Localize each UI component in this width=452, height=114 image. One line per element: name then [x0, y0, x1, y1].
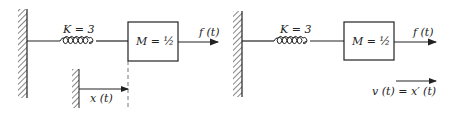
wall [18, 9, 27, 98]
reference-wall [72, 69, 79, 108]
velocity-label: v (t) = x′ (t) [372, 86, 436, 97]
mass-label: M = ½ [352, 36, 390, 47]
spring-constant-label: K = 3 [280, 24, 311, 35]
spring-coil [60, 37, 93, 44]
spring-coil [274, 37, 307, 44]
mass-label: M = ½ [136, 36, 174, 47]
displacement-label: x (t) [90, 93, 113, 104]
diagram-left [18, 9, 218, 110]
force-label: f (t) [413, 27, 434, 38]
wall [233, 11, 242, 97]
spring-constant-label: K = 3 [63, 24, 94, 35]
force-label: f (t) [199, 27, 220, 38]
